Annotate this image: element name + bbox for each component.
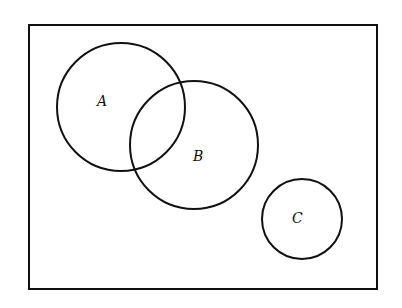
venn-diagram: A B C	[0, 0, 402, 308]
set-a-label: A	[95, 93, 107, 109]
set-b-circle	[130, 81, 258, 209]
set-c-label: C	[292, 210, 303, 226]
set-b-label: B	[192, 148, 203, 164]
set-a-circle	[57, 43, 185, 171]
